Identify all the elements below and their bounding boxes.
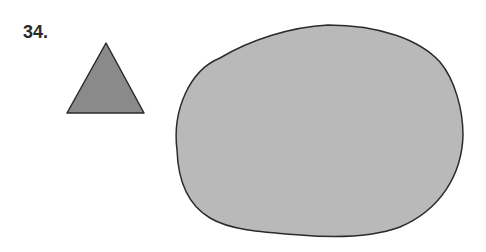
blob-shape [176, 25, 463, 237]
triangle-shape [67, 43, 144, 113]
shapes-figure [0, 0, 486, 252]
